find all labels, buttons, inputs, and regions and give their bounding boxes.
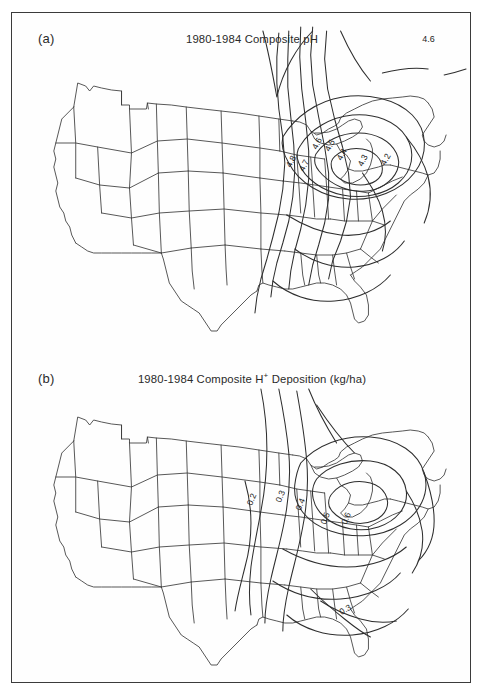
contour-label-0-6: 0.6 (339, 511, 353, 526)
panel-b-map-svg: 0.2 0.3 0.4 0.5 0.6 0.3 (12, 353, 470, 684)
figure-frame: (a) 1980-1984 Composite pH (11, 12, 471, 683)
ph-contours (255, 27, 466, 313)
contour-label-4-4: 4.4 (335, 146, 350, 161)
panel-a: (a) 1980-1984 Composite pH (12, 13, 470, 353)
panel-a-map: 4.8 4.7 4.6 4.5 4.4 4.3 4.2 4.6 (12, 13, 470, 353)
panel-b-map: 0.2 0.3 0.4 0.5 0.6 0.3 (12, 353, 470, 684)
contour-label-0-3: 0.3 (273, 489, 287, 504)
panel-a-map-svg: 4.8 4.7 4.6 4.5 4.4 4.3 4.2 4.6 (12, 13, 470, 353)
panel-b: (b) 1980-1984 Composite H+ Deposition (k… (12, 353, 470, 684)
contour-label-4-3: 4.3 (355, 152, 370, 167)
contour-label-4-2: 4.2 (378, 151, 393, 166)
contour-label-0-3-south: 0.3 (338, 602, 353, 617)
contour-label-4-8: 4.8 (284, 153, 299, 168)
contour-label-0-2: 0.2 (245, 492, 259, 507)
contour-label-4-6-outer: 4.6 (422, 34, 434, 44)
